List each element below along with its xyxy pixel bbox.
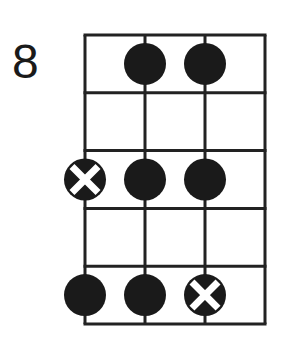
note-dot-icon: [64, 274, 106, 316]
note-dot-icon: [184, 159, 226, 201]
note-dot-icon: [184, 43, 226, 85]
note-dot-icon: [124, 159, 166, 201]
root-note-marker: [64, 159, 106, 201]
root-note-marker: [184, 274, 226, 316]
note-dot-icon: [124, 43, 166, 85]
fretboard-diagram: [0, 0, 285, 349]
fretboard-grid: [84, 35, 267, 324]
note-markers: [64, 43, 226, 316]
note-dot-icon: [124, 274, 166, 316]
